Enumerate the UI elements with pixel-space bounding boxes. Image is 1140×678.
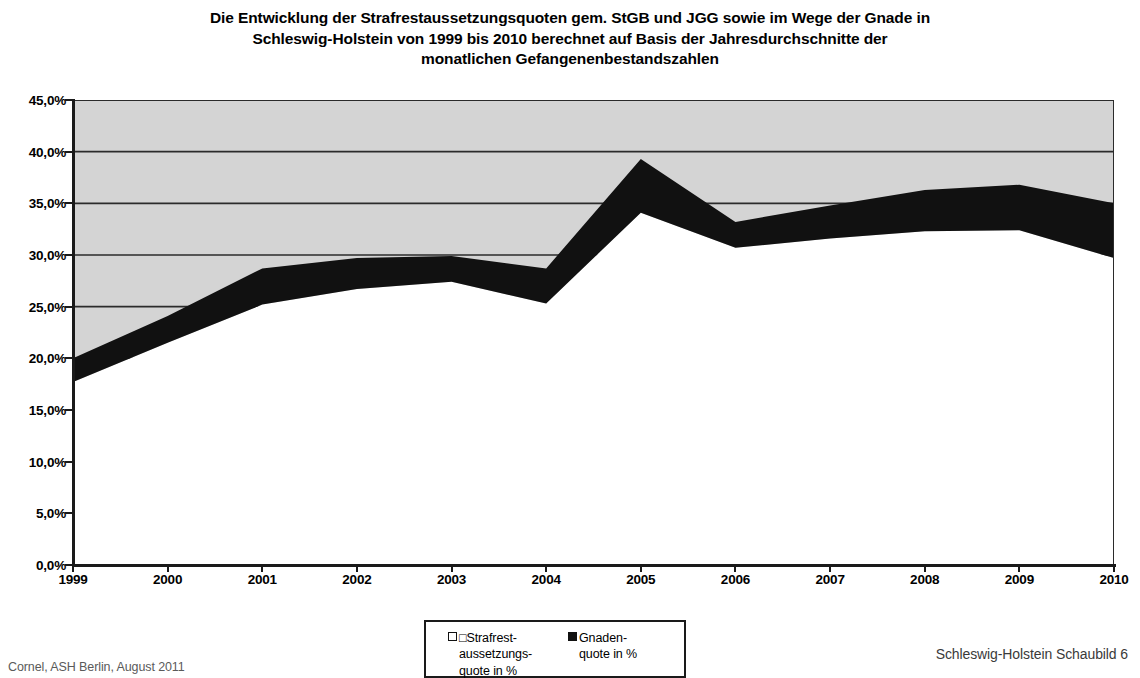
y-axis-tick-label: 5,0% [8, 506, 66, 521]
x-axis-tick-mark [640, 565, 642, 572]
legend-item-strafrestaussetzungsquote: □Strafrest- aussetzungs- quote in % [448, 630, 568, 676]
x-axis-tick-mark [1113, 565, 1115, 572]
x-axis-tick-mark [924, 565, 926, 572]
y-axis-tick-label: 35,0% [8, 196, 66, 211]
title-line-1: Die Entwicklung der Strafrestaussetzungs… [70, 8, 1070, 29]
x-axis-tick-label: 2007 [795, 572, 865, 587]
x-axis-tick-mark [356, 565, 358, 572]
legend-label-line-2: quote in % [579, 646, 637, 662]
x-axis-tick-mark [545, 565, 547, 572]
y-axis [72, 99, 75, 567]
x-axis-tick-label: 2009 [984, 572, 1054, 587]
y-axis-tick-mark [65, 99, 73, 101]
area-series-strafrestaussetzungsquote-in [73, 213, 1114, 565]
y-axis-tick-mark [65, 202, 73, 204]
x-axis-tick-label: 2002 [322, 572, 392, 587]
x-axis-tick-mark [72, 565, 74, 572]
x-axis-tick-label: 2003 [417, 572, 487, 587]
x-axis-tick-label: 2001 [227, 572, 297, 587]
dark-square-marker-icon [568, 632, 577, 641]
x-axis-tick-mark [829, 565, 831, 572]
y-axis-tick-label: 45,0% [8, 93, 66, 108]
y-axis-tick-label: 30,0% [8, 248, 66, 263]
legend-label-line-3: quote in % [459, 663, 532, 678]
legend-label-gnadenquote: Gnaden- quote in % [579, 630, 637, 663]
y-axis-tick-mark [65, 357, 73, 359]
x-axis-tick-mark [451, 565, 453, 572]
x-axis-tick-label: 2000 [133, 572, 203, 587]
stacked-area-chart [73, 100, 1114, 565]
x-axis [72, 564, 1116, 567]
legend-label-line-1: □Strafrest- [459, 630, 532, 646]
y-axis-tick-mark [65, 461, 73, 463]
footer-reference: Schleswig-Holstein Schaubild 6 [936, 646, 1128, 662]
legend-label-line-1: Gnaden- [579, 630, 637, 646]
y-axis-tick-mark [65, 306, 73, 308]
x-axis-tick-label: 2008 [890, 572, 960, 587]
footer-source: Cornel, ASH Berlin, August 2011 [8, 660, 185, 674]
title-line-3: monatlichen Gefangenenbestandszahlen [70, 49, 1070, 70]
x-axis-tick-mark [1018, 565, 1020, 572]
y-axis-tick-label: 20,0% [8, 351, 66, 366]
x-axis-tick-label: 2005 [606, 572, 676, 587]
x-axis-tick-label: 2004 [511, 572, 581, 587]
chart-legend: □Strafrest- aussetzungs- quote in % Gnad… [424, 620, 686, 678]
y-axis-tick-mark [65, 254, 73, 256]
x-axis-tick-mark [167, 565, 169, 572]
y-axis-tick-label: 0,0% [8, 558, 66, 573]
y-axis-tick-label: 40,0% [8, 144, 66, 159]
page-title: Die Entwicklung der Strafrestaussetzungs… [70, 8, 1070, 70]
y-axis-tick-mark [65, 512, 73, 514]
title-line-2: Schleswig-Holstein von 1999 bis 2010 ber… [70, 29, 1070, 50]
y-axis-tick-mark [65, 151, 73, 153]
x-axis-tick-mark [734, 565, 736, 572]
y-axis-tick-label: 10,0% [8, 454, 66, 469]
x-axis-tick-label: 1999 [38, 572, 108, 587]
light-square-marker-icon [448, 632, 457, 641]
legend-item-gnadenquote: Gnaden- quote in % [568, 630, 637, 676]
y-axis-tick-mark [65, 409, 73, 411]
y-axis-tick-label: 25,0% [8, 299, 66, 314]
legend-label-line-2: aussetzungs- [459, 646, 532, 662]
y-axis-tick-label: 15,0% [8, 403, 66, 418]
x-axis-tick-label: 2006 [700, 572, 770, 587]
chart-plot-area [73, 100, 1114, 565]
legend-label-strafrestaussetzungsquote: □Strafrest- aussetzungs- quote in % [459, 630, 532, 678]
x-axis-tick-label: 2010 [1079, 572, 1140, 587]
x-axis-tick-mark [261, 565, 263, 572]
